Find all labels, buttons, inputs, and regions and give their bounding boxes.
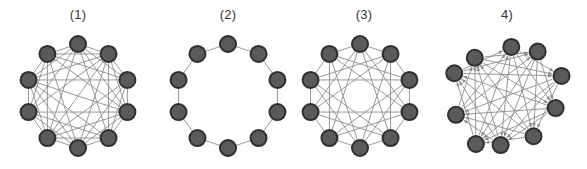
graph-node: [401, 72, 417, 88]
graph-panel: (2): [154, 0, 302, 169]
graph-node: [493, 137, 509, 153]
graph-node: [21, 72, 37, 88]
graph-node: [548, 100, 564, 116]
graph-node: [303, 72, 319, 88]
graph-node: [21, 104, 37, 120]
graph-node: [446, 65, 462, 81]
graph-node: [39, 130, 55, 146]
graph-node: [530, 44, 546, 60]
graph-node: [554, 68, 570, 84]
graph-node: [70, 140, 86, 156]
graph-node: [171, 104, 187, 120]
graph-node: [383, 130, 399, 146]
graph-node: [171, 72, 187, 88]
graph-node: [503, 39, 519, 55]
graph-node: [467, 50, 483, 66]
panel-label: 4): [432, 8, 582, 21]
graph-figure: (1)(2)(3)4): [0, 0, 587, 169]
graph-panel: (1): [4, 0, 152, 169]
graph-edge: [479, 56, 508, 135]
graph-node: [189, 130, 205, 146]
graph-node: [321, 130, 337, 146]
panel-label: (1): [4, 8, 152, 21]
graph-node: [220, 140, 236, 156]
graph-canvas: [432, 28, 582, 164]
graph-node: [526, 128, 542, 144]
graph-node: [39, 46, 55, 62]
graph-node: [70, 36, 86, 52]
graph-node: [303, 104, 319, 120]
node-group: [171, 36, 286, 156]
graph-canvas: [290, 28, 438, 164]
graph-node: [383, 46, 399, 62]
graph-edge: [29, 80, 128, 112]
graph-node: [251, 130, 267, 146]
graph-canvas: [4, 28, 152, 164]
graph-edge: [465, 79, 553, 111]
graph-node: [448, 107, 464, 123]
graph-edge: [475, 67, 476, 134]
graph-node: [220, 36, 236, 52]
panel-label: (3): [290, 8, 438, 21]
graph-canvas: [154, 28, 302, 164]
graph-node: [352, 36, 368, 52]
graph-node: [269, 72, 285, 88]
graph-panel: (3): [290, 0, 438, 169]
panel-label: (2): [154, 8, 302, 21]
graph-node: [321, 46, 337, 62]
graph-panel: 4): [432, 0, 582, 169]
graph-node: [269, 104, 285, 120]
graph-node: [468, 136, 484, 152]
graph-node: [251, 46, 267, 62]
graph-node: [101, 46, 117, 62]
graph-node: [119, 72, 135, 88]
graph-node: [401, 104, 417, 120]
node-group: [303, 36, 418, 156]
graph-edge: [483, 82, 554, 138]
graph-node: [119, 104, 135, 120]
graph-node: [352, 140, 368, 156]
graph-node: [189, 46, 205, 62]
graph-node: [101, 130, 117, 146]
